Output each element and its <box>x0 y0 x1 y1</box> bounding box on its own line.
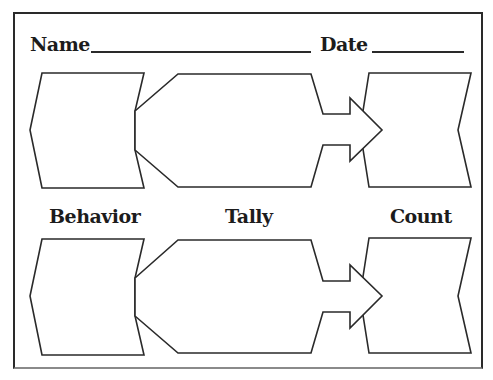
tally-row-shapes <box>0 0 493 380</box>
tally-worksheet: Name Date Behavior Tally Count <box>0 0 493 380</box>
row-1-behavior-box[interactable] <box>30 73 144 188</box>
row-2-tally-arrow[interactable] <box>135 240 382 353</box>
row-1-tally-arrow[interactable] <box>135 74 382 187</box>
row-2-behavior-box[interactable] <box>30 239 144 355</box>
